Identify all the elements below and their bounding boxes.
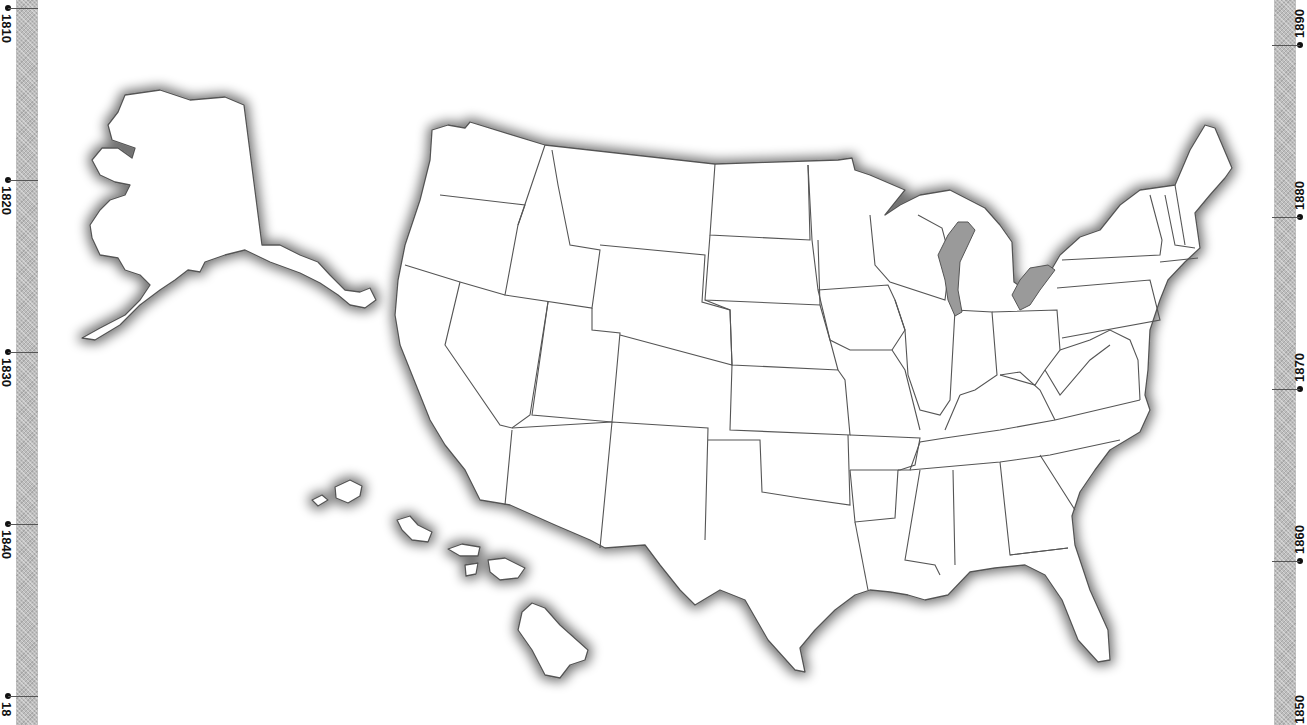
alaska — [82, 90, 376, 340]
contiguous-us — [395, 122, 1232, 672]
